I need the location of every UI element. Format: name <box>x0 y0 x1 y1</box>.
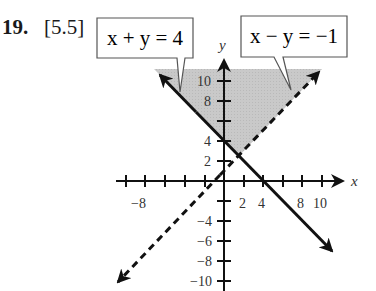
y-axis-label: y <box>217 37 226 53</box>
x-tick-label: 10 <box>313 196 327 211</box>
y-tick-label: 4 <box>204 134 211 149</box>
x-axis <box>116 175 343 187</box>
y-tick-label: 2 <box>204 154 211 169</box>
callout-solid-line: x + y = 4 <box>97 18 193 92</box>
y-tick-label: −6 <box>197 234 212 249</box>
x-axis-label: x <box>350 173 358 189</box>
y-tick-label: 8 <box>204 94 211 109</box>
y-tick-label: 10 <box>197 74 211 89</box>
y-tick-label: −8 <box>197 254 212 269</box>
y-tick-label: −10 <box>190 274 212 289</box>
callout-label: x − y = −1 <box>250 24 338 48</box>
x-tick-label: −8 <box>131 196 146 211</box>
x-tick-label: 4 <box>258 196 265 211</box>
y-tick-label: −4 <box>197 214 212 229</box>
graph: −8 2 4 8 10 10 8 4 2 −4 −6 −8 −10 x y x … <box>0 0 376 291</box>
callout-label: x + y = 4 <box>107 26 184 50</box>
x-tick-label: 8 <box>297 196 304 211</box>
x-tick-label: 2 <box>239 196 246 211</box>
